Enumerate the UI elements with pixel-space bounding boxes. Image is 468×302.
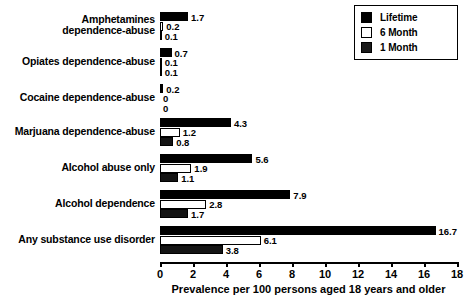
x-axis-tick <box>391 262 393 267</box>
bar-value-label: 16.7 <box>439 227 458 236</box>
bar-value-label: 0.8 <box>176 138 189 147</box>
chart-legend: Lifetime 6 Month 1 Month <box>354 5 458 60</box>
bar-value-label: 0.1 <box>165 58 178 67</box>
bar-value-label: 1.7 <box>191 210 204 219</box>
x-axis-tick-label: 2 <box>180 268 206 280</box>
x-axis-tick-label: 4 <box>213 268 239 280</box>
category-label-line: Alcohol dependence <box>0 198 155 210</box>
x-axis-tick <box>424 262 426 267</box>
bar-6-month <box>160 200 206 209</box>
bar-lifetime <box>160 226 436 235</box>
legend-label-6-month: 6 Month <box>380 27 418 38</box>
bar-value-label: 1.2 <box>183 128 196 137</box>
x-axis-tick <box>160 262 162 267</box>
x-axis-tick <box>457 262 459 267</box>
bar-value-label: 3.8 <box>226 246 239 255</box>
bar-1-month <box>160 31 162 40</box>
bar-value-label: 1.7 <box>191 13 204 22</box>
bar-value-label: 0 <box>163 94 168 103</box>
x-axis-tick <box>259 262 261 267</box>
x-axis-tick <box>358 262 360 267</box>
x-axis-title: Prevalence per 100 persons aged 18 years… <box>160 283 457 295</box>
bar-value-label: 0.1 <box>165 68 178 77</box>
legend-item-1-month: 1 Month <box>361 40 451 54</box>
bar-6-month <box>160 236 261 245</box>
legend-swatch-icon-lifetime <box>361 12 372 23</box>
x-axis-tick-label: 12 <box>345 268 371 280</box>
bar-value-label: 2.8 <box>209 200 222 209</box>
bar-lifetime <box>160 190 290 199</box>
bar-value-label: 5.6 <box>255 155 268 164</box>
bar-lifetime <box>160 48 172 57</box>
bar-value-label: 4.3 <box>234 119 247 128</box>
bar-value-label: 7.9 <box>293 191 306 200</box>
x-axis-tick <box>325 262 327 267</box>
x-axis-tick <box>226 262 228 267</box>
category-label-line: Marjuana dependence-abuse <box>0 126 155 138</box>
legend-swatch-icon-1-month <box>361 42 372 53</box>
x-axis-tick-label: 6 <box>246 268 272 280</box>
bar-lifetime <box>160 12 188 21</box>
bar-1-month <box>160 67 162 76</box>
legend-item-lifetime: Lifetime <box>361 10 451 24</box>
x-axis-tick-label: 16 <box>411 268 437 280</box>
bar-value-label: 0.2 <box>166 85 179 94</box>
bar-value-label: 0.1 <box>165 32 178 41</box>
category-label: Opiates dependence-abuse <box>0 56 155 68</box>
bar-1-month <box>160 209 188 218</box>
bar-chart: Lifetime 6 Month 1 Month Amphetaminesdep… <box>0 0 468 302</box>
category-label: Alcohol abuse only <box>0 162 155 174</box>
bar-1-month <box>160 245 223 254</box>
bar-1-month <box>160 173 178 182</box>
bar-lifetime <box>160 154 252 163</box>
legend-item-6-month: 6 Month <box>361 25 451 39</box>
bar-value-label: 1.9 <box>194 164 207 173</box>
bar-value-label: 1.1 <box>181 174 194 183</box>
bar-value-label: 0.2 <box>166 22 179 31</box>
x-axis-tick-label: 18 <box>444 268 468 280</box>
category-label-line: Any substance use disorder <box>0 234 155 246</box>
legend-label-1-month: 1 Month <box>380 42 418 53</box>
bar-lifetime <box>160 118 231 127</box>
bar-6-month <box>160 22 163 31</box>
category-label-line: dependence-abuse <box>0 25 155 37</box>
legend-swatch-icon-6-month <box>361 27 372 38</box>
bar-6-month <box>160 58 162 67</box>
category-label: Amphetaminesdependence-abuse <box>0 14 155 37</box>
category-label: Alcohol dependence <box>0 198 155 210</box>
category-label-line: Alcohol abuse only <box>0 162 155 174</box>
bar-1-month <box>160 137 173 146</box>
bar-6-month <box>160 128 180 137</box>
bar-6-month <box>160 164 191 173</box>
legend-label-lifetime: Lifetime <box>380 12 418 23</box>
x-axis-tick-label: 10 <box>312 268 338 280</box>
category-label: Marjuana dependence-abuse <box>0 126 155 138</box>
bar-lifetime <box>160 84 163 93</box>
x-axis-tick <box>292 262 294 267</box>
x-axis-tick-label: 8 <box>279 268 305 280</box>
bar-value-label: 6.1 <box>264 236 277 245</box>
x-axis-line <box>160 262 457 264</box>
bar-value-label: 0 <box>163 104 168 113</box>
category-label-line: Opiates dependence-abuse <box>0 56 155 68</box>
category-label: Cocaine dependence-abuse <box>0 92 155 104</box>
x-axis-tick-label: 14 <box>378 268 404 280</box>
x-axis-tick-label: 0 <box>147 268 173 280</box>
category-label: Any substance use disorder <box>0 234 155 246</box>
category-label-line: Cocaine dependence-abuse <box>0 92 155 104</box>
x-axis-tick <box>193 262 195 267</box>
